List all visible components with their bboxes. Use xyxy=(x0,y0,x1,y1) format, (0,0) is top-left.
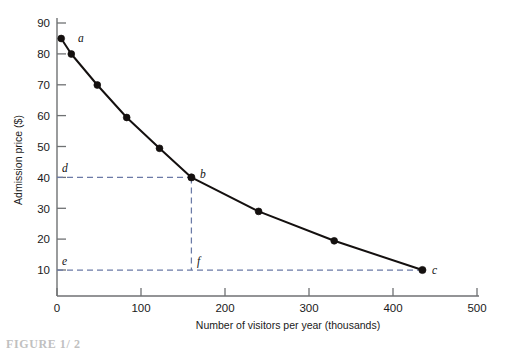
annotation-label-e: e xyxy=(62,255,67,267)
annotation-label-a: a xyxy=(78,32,84,44)
figure-caption: FIGURE 1/ 2 xyxy=(6,337,81,350)
annotation-label-b: b xyxy=(200,168,206,180)
x-tick-label: 0 xyxy=(54,302,60,314)
x-tick-label: 400 xyxy=(383,302,402,314)
y-tick-label: 20 xyxy=(37,233,50,245)
guide-lines xyxy=(57,177,422,270)
x-tick-label: 500 xyxy=(467,302,486,314)
y-axis-title: Admission price ($) xyxy=(12,115,24,205)
data-point xyxy=(156,145,163,152)
x-tick-label: 200 xyxy=(215,302,234,314)
data-point xyxy=(58,35,65,42)
figure-container: 90 80 70 60 50 40 30 20 10 0 100 200 300… xyxy=(0,0,516,350)
data-point xyxy=(94,82,101,89)
data-point xyxy=(331,237,338,244)
y-tick-label: 80 xyxy=(37,48,50,60)
y-tick-label: 30 xyxy=(37,203,50,215)
y-tick-label: 10 xyxy=(37,264,50,276)
y-tick-label: 50 xyxy=(37,141,50,153)
data-point xyxy=(123,114,130,121)
data-point-markers xyxy=(58,35,426,274)
y-tick-label: 90 xyxy=(37,17,50,29)
data-point xyxy=(188,174,195,181)
y-tick-label: 70 xyxy=(37,79,50,91)
data-point xyxy=(68,51,75,58)
x-tick-label: 300 xyxy=(299,302,318,314)
y-tick-label: 60 xyxy=(37,110,50,122)
annotation-label-d: d xyxy=(62,162,68,174)
x-tick-label: 100 xyxy=(131,302,150,314)
y-axis-ticks xyxy=(57,23,66,270)
y-tick-label: 40 xyxy=(37,172,50,184)
x-axis-title: Number of visitors per year (thousands) xyxy=(196,319,380,331)
annotation-label-f: f xyxy=(197,255,202,268)
x-axis-ticks xyxy=(57,288,477,296)
data-point xyxy=(419,266,426,273)
annotation-label-c: c xyxy=(432,264,437,276)
demand-curve-line xyxy=(61,39,422,271)
data-point xyxy=(255,208,262,215)
demand-curve-chart: 90 80 70 60 50 40 30 20 10 0 100 200 300… xyxy=(0,0,516,350)
